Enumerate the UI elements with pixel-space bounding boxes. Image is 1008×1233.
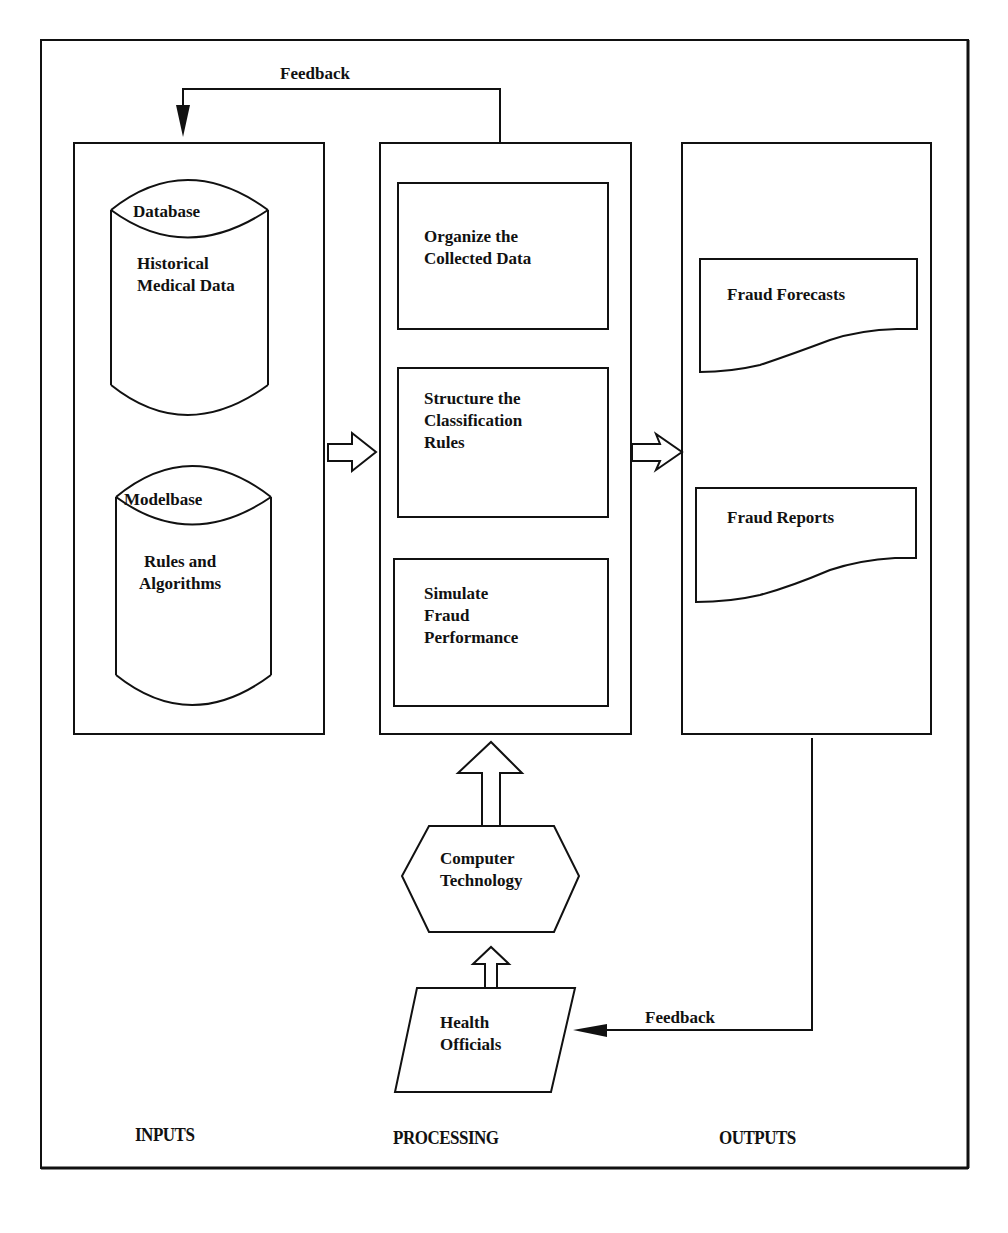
step-organize-line-1: Organize the	[424, 226, 531, 248]
fraud-forecasts-label: Fraud Forecasts	[727, 284, 845, 306]
modelbase-header: Modelbase	[124, 489, 202, 511]
modelbase-line-1: Rules and	[139, 551, 221, 573]
officials-to-tech-arrow-icon	[473, 947, 509, 988]
database-line-1: Historical	[137, 253, 235, 275]
step-structure-label: Structure the Classification Rules	[424, 388, 522, 454]
health-officials-line-2: Officials	[440, 1034, 501, 1056]
processing-to-outputs-arrow-icon	[632, 434, 682, 470]
feedback-top-arrowhead-icon	[176, 105, 190, 137]
outputs-panel	[682, 143, 931, 734]
step-structure-line-2: Classification	[424, 410, 522, 432]
outputs-caption: OUTPUTS	[719, 1127, 796, 1150]
health-officials-label: Health Officials	[440, 1012, 501, 1056]
step-simulate-line-1: Simulate	[424, 583, 518, 605]
modelbase-description: Rules and Algorithms	[139, 551, 221, 595]
database-line-2: Medical Data	[137, 275, 235, 297]
document-shape-forecasts	[700, 259, 917, 372]
feedback-bottom-label: Feedback	[645, 1007, 715, 1029]
tech-to-processing-arrow-icon	[458, 742, 522, 826]
document-shape-reports	[696, 488, 916, 602]
step-structure-line-3: Rules	[424, 432, 522, 454]
modelbase-line-2: Algorithms	[139, 573, 221, 595]
step-simulate-line-3: Performance	[424, 627, 518, 649]
processing-caption: PROCESSING	[393, 1127, 499, 1150]
feedback-top-line	[183, 89, 500, 143]
step-organize-line-2: Collected Data	[424, 248, 531, 270]
step-simulate-label: Simulate Fraud Performance	[424, 583, 518, 649]
feedback-top-label: Feedback	[280, 63, 350, 85]
feedback-bottom-line	[602, 738, 812, 1030]
database-description: Historical Medical Data	[137, 253, 235, 297]
computer-technology-line-2: Technology	[440, 870, 523, 892]
health-officials-line-1: Health	[440, 1012, 501, 1034]
inputs-to-processing-arrow-icon	[328, 433, 376, 471]
computer-technology-label: Computer Technology	[440, 848, 523, 892]
step-simulate-line-2: Fraud	[424, 605, 518, 627]
database-header: Database	[133, 201, 200, 223]
fraud-reports-label: Fraud Reports	[727, 507, 834, 529]
inputs-caption: INPUTS	[135, 1124, 194, 1147]
step-organize-label: Organize the Collected Data	[424, 226, 531, 270]
computer-technology-line-1: Computer	[440, 848, 523, 870]
feedback-bottom-arrowhead-icon	[573, 1024, 607, 1037]
step-structure-line-1: Structure the	[424, 388, 522, 410]
fraud-detection-system-diagram: Feedback Feedback Database Historical Me…	[0, 0, 1008, 1233]
